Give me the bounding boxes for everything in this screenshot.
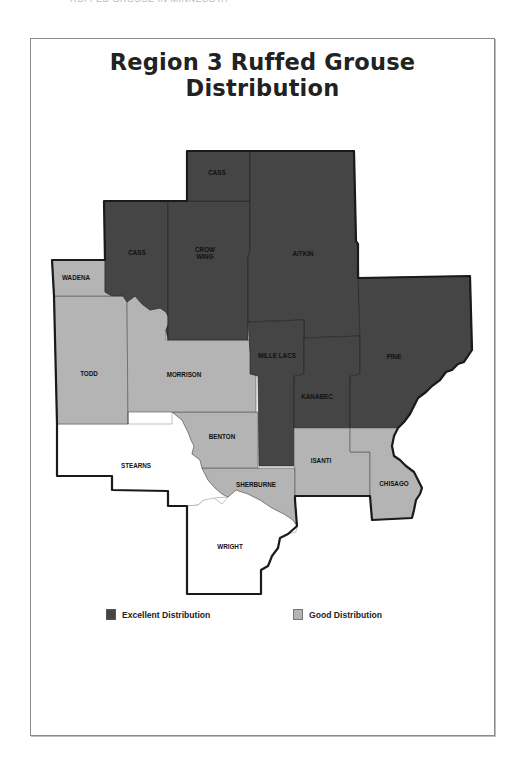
label-cass-west: CASS [128, 249, 146, 256]
label-aitkin: AITKIN [293, 250, 314, 257]
label-isanti: ISANTI [311, 457, 332, 464]
legend-item-good: Good Distribution [293, 609, 382, 620]
label-crow-wing-line1: CROW [195, 246, 215, 253]
label-todd: TODD [80, 370, 98, 377]
label-benton: BENTON [209, 433, 236, 440]
label-pine: PINE [387, 353, 402, 360]
label-chisago: CHISAGO [379, 480, 408, 487]
legend-label-good: Good Distribution [309, 610, 382, 620]
region-map: CASS CASS CROW WING AITKIN WADENA TODD M… [0, 0, 520, 765]
label-kanabec: KANABEC [301, 393, 333, 400]
county-pine [350, 276, 472, 428]
label-sherburne: SHERBURNE [236, 481, 276, 488]
county-crow-wing [168, 201, 250, 340]
label-wright: WRIGHT [217, 543, 243, 550]
label-morrison: MORRISON [167, 371, 202, 378]
county-todd [54, 296, 128, 424]
label-stearns: STEARNS [121, 462, 151, 469]
legend-swatch-excellent [106, 609, 116, 620]
legend-swatch-good [293, 609, 303, 620]
legend-label-excellent: Excellent Distribution [122, 610, 210, 620]
legend-item-excellent: Excellent Distribution [106, 609, 210, 620]
county-cass-north [187, 151, 250, 201]
label-crow-wing-line2: WING [196, 253, 213, 260]
county-aitkin [248, 151, 360, 338]
label-wadena: WADENA [62, 274, 90, 281]
label-mille-lacs: MILLE LACS [258, 352, 296, 359]
label-cass-north: CASS [208, 169, 226, 176]
